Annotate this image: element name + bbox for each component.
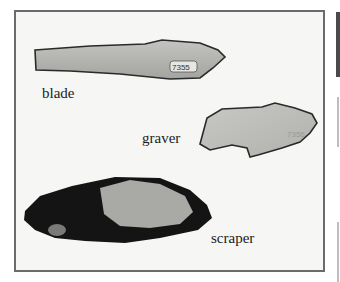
blade-catalog-number: 7355 bbox=[172, 63, 190, 72]
label-blade: blade bbox=[42, 86, 74, 101]
scraper-inclusion bbox=[48, 224, 66, 236]
label-graver: graver bbox=[142, 131, 180, 146]
label-scraper: scraper bbox=[211, 231, 254, 246]
scraper-artifact bbox=[24, 177, 212, 243]
graver-artifact: 7356 bbox=[200, 103, 317, 157]
blade-artifact: 7355 bbox=[35, 40, 225, 79]
graver-catalog-number: 7356 bbox=[287, 130, 305, 139]
